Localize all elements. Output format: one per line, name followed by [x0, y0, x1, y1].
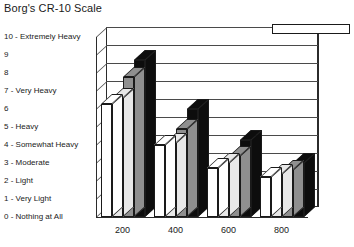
bar-side-face: [123, 88, 134, 217]
bar-side-face: [304, 153, 315, 217]
bar-side-face: [134, 67, 145, 217]
bar-side-face: [165, 135, 176, 217]
bar: [101, 104, 112, 217]
bar-side-face: [187, 119, 198, 217]
x-axis-tick-label: 600: [209, 225, 249, 235]
y-axis-tick-label: 8: [4, 68, 8, 77]
y-axis-line: [96, 37, 97, 217]
y-axis-tick-label: 7 - Very Heavy: [4, 86, 56, 95]
gridline: [106, 45, 318, 46]
x-axis-tick-label: 800: [262, 225, 302, 235]
bar-side-face: [176, 133, 187, 217]
bar-side-face: [240, 146, 251, 217]
bar: [154, 145, 165, 217]
bar-side-face: [293, 160, 304, 217]
chart-container: Borg's CR-10 Scale 10 - Extremely Heavy9…: [0, 0, 354, 247]
chart-legend: [272, 24, 350, 34]
y-axis-tick-label: 2 - Light: [4, 176, 33, 185]
bar-side-face: [282, 164, 293, 217]
y-axis-tick-label: 10 - Extremely Heavy: [4, 32, 80, 41]
right-axis-line: [318, 27, 319, 207]
y-axis-tick-label: 4 - Somewhat Heavy: [4, 140, 78, 149]
bar: [207, 168, 218, 217]
bar-front-face: [101, 104, 112, 217]
bar-front-face: [154, 145, 165, 217]
chart-title: Borg's CR-10 Scale: [4, 2, 102, 14]
x-axis-tick-label: 400: [156, 225, 196, 235]
x-axis-tick-label: 200: [103, 225, 143, 235]
plot-area: [96, 27, 318, 217]
x-axis-line: [96, 217, 308, 218]
bar-front-face: [207, 168, 218, 217]
y-axis-tick-label: 5 - Heavy: [4, 122, 38, 131]
bar: [260, 177, 271, 217]
y-axis-tick-label: 3 - Moderate: [4, 158, 49, 167]
y-axis-tick-label: 6: [4, 104, 8, 113]
bar-front-face: [260, 177, 271, 217]
y-axis-tick-label: 0 - Nothing at All: [4, 212, 63, 221]
bar-side-face: [218, 158, 229, 217]
bar-side-face: [229, 153, 240, 217]
y-axis-tick-label: 1 - Very Light: [4, 194, 51, 203]
bar-side-face: [112, 94, 123, 217]
y-axis-tick-label: 9: [4, 50, 8, 59]
